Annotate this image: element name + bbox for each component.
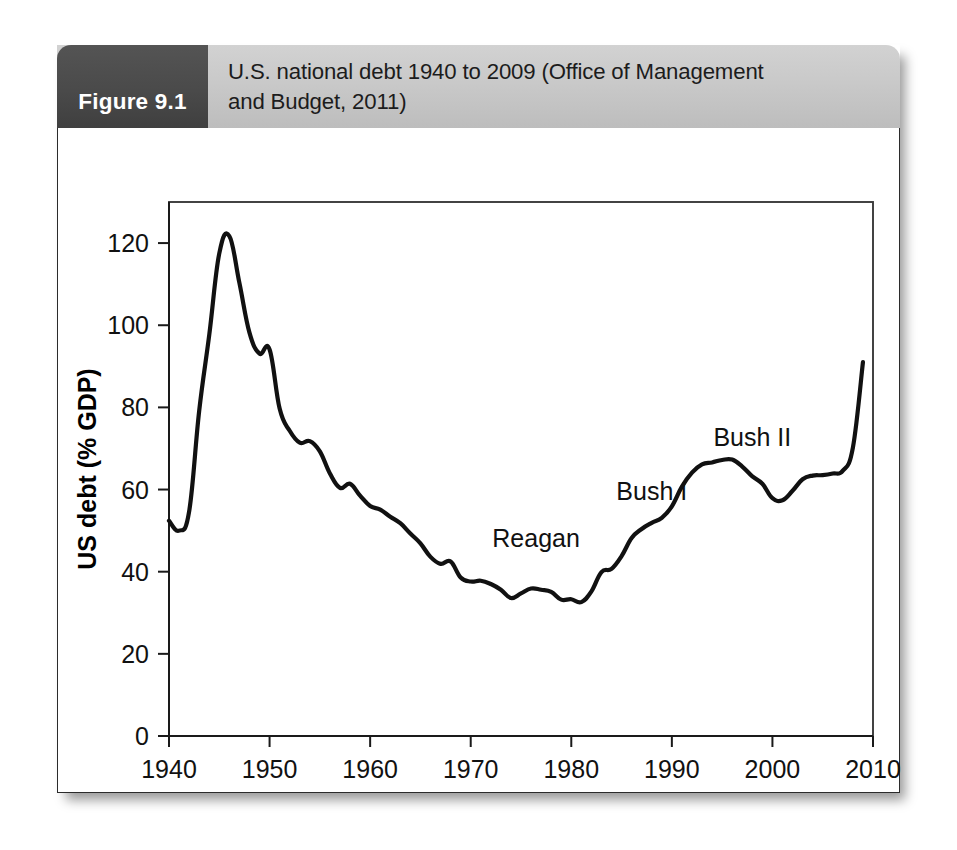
y-tick-label: 60 [121, 476, 149, 504]
x-tick-label: 1970 [443, 755, 499, 783]
y-tick-label: 100 [107, 311, 149, 339]
chart-annotations: ReaganBush IBush II [492, 423, 791, 552]
figure-header-band: Figure 9.1 U.S. national debt 1940 to 20… [57, 45, 900, 128]
y-tick-label: 80 [121, 393, 149, 421]
x-tick-label: 1950 [242, 755, 298, 783]
figure-plot-area: 19401950196019701980199020002010 0204060… [57, 128, 900, 793]
chart-annotation-label: Bush I [616, 477, 687, 505]
y-axis-title: US debt (% GDP) [73, 368, 101, 569]
x-axis-tick-labels: 19401950196019701980199020002010 [141, 755, 901, 783]
x-tick-label: 1960 [342, 755, 398, 783]
figure-number-label: Figure 9.1 [78, 89, 186, 115]
x-tick-label: 1980 [543, 755, 599, 783]
x-tick-label: 1940 [141, 755, 197, 783]
x-tick-label: 1990 [644, 755, 700, 783]
figure-caption-text: U.S. national debt 1940 to 2009 (Office … [228, 57, 764, 116]
y-axis-tick-labels: 020406080100120 [107, 229, 149, 750]
y-tick-label: 120 [107, 229, 149, 257]
y-axis-ticks [158, 243, 169, 736]
y-tick-label: 20 [121, 640, 149, 668]
x-tick-label: 2010 [845, 755, 901, 783]
chart-annotation-label: Reagan [492, 524, 580, 552]
y-tick-label: 0 [135, 722, 149, 750]
y-tick-label: 40 [121, 558, 149, 586]
chart-canvas: 19401950196019701980199020002010 0204060… [58, 128, 901, 793]
figure-caption-line-1: U.S. national debt 1940 to 2009 (Office … [228, 59, 764, 84]
figure-caption-line-2: and Budget, 2011) [228, 89, 406, 114]
line-chart: 19401950196019701980199020002010 0204060… [58, 128, 901, 793]
chart-annotation-label: Bush II [713, 423, 791, 451]
plot-frame [169, 202, 873, 736]
x-tick-label: 2000 [745, 755, 801, 783]
figure-number-block: Figure 9.1 [57, 45, 208, 128]
figure-caption-block: U.S. national debt 1940 to 2009 (Office … [208, 45, 900, 128]
x-axis-ticks [169, 736, 873, 747]
figure-card: Figure 9.1 U.S. national debt 1940 to 20… [57, 45, 900, 793]
